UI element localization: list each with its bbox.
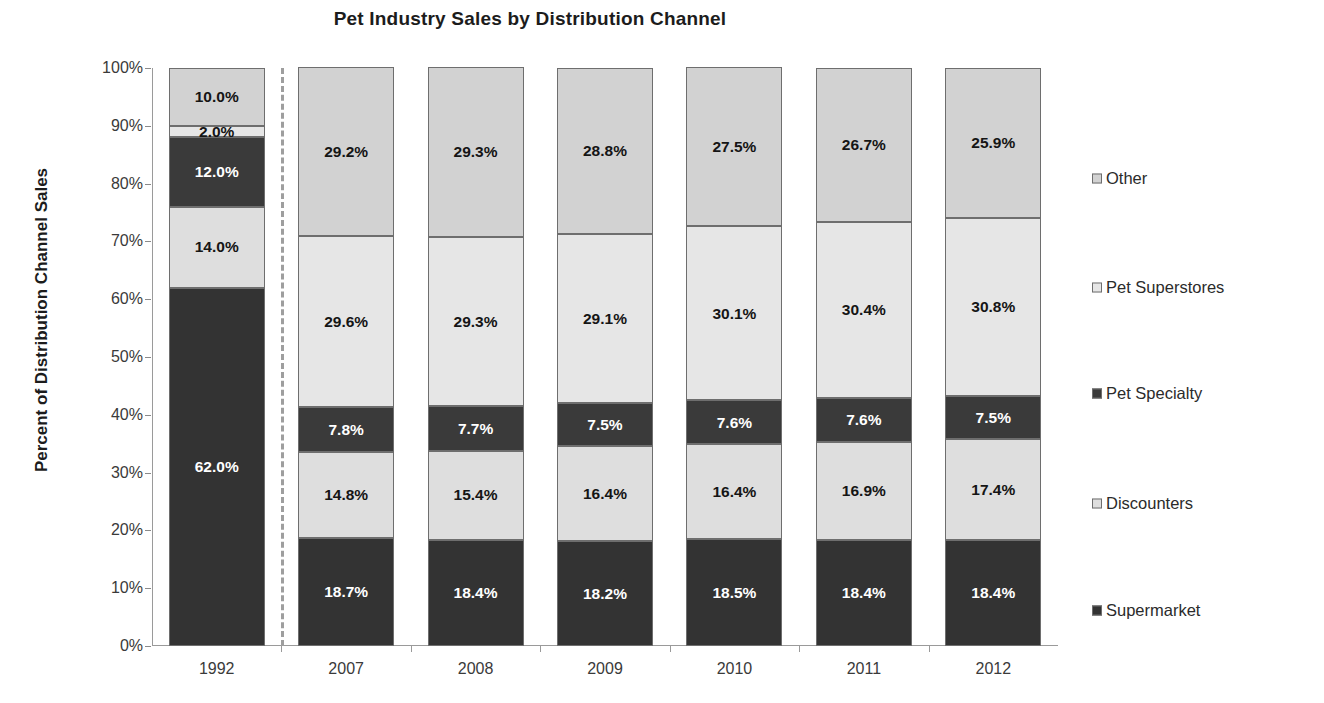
bar-stack[interactable]: 18.4%17.4%7.5%30.8%25.9% (945, 68, 1041, 646)
bar-segment-value-label: 28.8% (583, 143, 627, 159)
bar-stack[interactable]: 18.5%16.4%7.6%30.1%27.5% (686, 68, 782, 646)
x-tick-label: 2012 (975, 660, 1011, 678)
bar-segment-value-label: 29.2% (324, 144, 368, 160)
bar-stack[interactable]: 18.4%15.4%7.7%29.3%29.3% (428, 68, 524, 646)
y-tick-label: 50% (111, 348, 143, 366)
bar-segment[interactable]: 29.2% (298, 67, 394, 236)
bar-segment[interactable]: 30.4% (816, 222, 912, 398)
y-tick-mark (145, 530, 151, 531)
legend-item[interactable]: Pet Superstores (1092, 278, 1224, 297)
bar-segment-value-label: 14.0% (195, 239, 239, 255)
bar-segment[interactable]: 29.1% (557, 234, 653, 402)
bar-segment[interactable]: 18.2% (557, 541, 653, 646)
bar-stack[interactable]: 18.2%16.4%7.5%29.1%28.8% (557, 68, 653, 646)
bar-segment[interactable]: 62.0% (169, 288, 265, 646)
legend-item[interactable]: Pet Specialty (1092, 384, 1202, 403)
y-tick-label: 0% (120, 637, 143, 655)
y-tick-label: 40% (111, 406, 143, 424)
bar-segment[interactable]: 2.0% (169, 126, 265, 138)
bar-group[interactable]: 18.4%17.4%7.5%30.8%25.9% (929, 68, 1058, 646)
bar-stack[interactable]: 18.7%14.8%7.8%29.6%29.2% (298, 68, 394, 646)
bar-segment[interactable]: 29.6% (298, 236, 394, 407)
bar-segment[interactable]: 30.1% (686, 226, 782, 400)
y-tick-mark (145, 68, 151, 69)
bar-segment-value-label: 18.4% (454, 585, 498, 601)
x-tick-label: 2009 (587, 660, 623, 678)
bar-segment[interactable]: 18.4% (945, 540, 1041, 646)
bar-segment-value-label: 7.5% (976, 410, 1011, 426)
bar-segment[interactable]: 16.4% (557, 446, 653, 541)
legend-item[interactable]: Supermarket (1092, 601, 1200, 620)
legend-swatch-icon (1092, 498, 1102, 508)
category-separator-line (281, 68, 284, 646)
bar-group[interactable]: 18.5%16.4%7.6%30.1%27.5% (670, 68, 799, 646)
bar-segment-value-label: 30.4% (842, 302, 886, 318)
y-axis-title: Percent of Distribution Channel Sales (32, 110, 52, 530)
bar-segment[interactable]: 30.8% (945, 218, 1041, 396)
bar-segment[interactable]: 12.0% (169, 137, 265, 206)
bar-segment[interactable]: 14.8% (298, 452, 394, 538)
bar-segment-value-label: 27.5% (712, 139, 756, 155)
bar-segment[interactable]: 7.5% (557, 403, 653, 446)
y-tick-label: 20% (111, 521, 143, 539)
y-tick-label: 100% (102, 59, 143, 77)
legend-item[interactable]: Discounters (1092, 494, 1193, 513)
y-tick-mark (145, 299, 151, 300)
bar-segment[interactable]: 16.9% (816, 442, 912, 540)
y-tick-mark (145, 126, 151, 127)
x-tick-mark (929, 646, 930, 652)
legend-item[interactable]: Other (1092, 169, 1147, 188)
bar-segment-value-label: 16.4% (583, 486, 627, 502)
bar-segment[interactable]: 14.0% (169, 207, 265, 288)
bar-segment-value-label: 16.4% (712, 484, 756, 500)
bar-segment[interactable]: 28.8% (557, 68, 653, 234)
bar-segment[interactable]: 10.0% (169, 68, 265, 126)
y-tick-label: 80% (111, 175, 143, 193)
bar-segment-value-label: 30.8% (971, 299, 1015, 315)
legend-label: Pet Specialty (1106, 384, 1202, 403)
bar-group[interactable]: 18.7%14.8%7.8%29.6%29.2% (281, 68, 410, 646)
y-tick-mark (145, 646, 151, 647)
bar-segment[interactable]: 7.6% (686, 400, 782, 444)
x-tick-mark (411, 646, 412, 652)
bar-segment[interactable]: 7.7% (428, 406, 524, 451)
bar-segment-value-label: 25.9% (971, 135, 1015, 151)
bar-group[interactable]: 18.4%15.4%7.7%29.3%29.3% (411, 68, 540, 646)
legend-label: Discounters (1106, 494, 1193, 513)
y-tick-mark (145, 241, 151, 242)
bar-segment[interactable]: 18.7% (298, 538, 394, 646)
bar-segment[interactable]: 7.6% (816, 398, 912, 442)
bar-segment[interactable]: 18.4% (816, 540, 912, 646)
bar-segment[interactable]: 29.3% (428, 237, 524, 406)
bar-segment[interactable]: 29.3% (428, 67, 524, 236)
bar-segment[interactable]: 18.4% (428, 540, 524, 646)
bar-segment[interactable]: 15.4% (428, 451, 524, 540)
bar-segment[interactable]: 26.7% (816, 68, 912, 222)
bar-stack[interactable]: 18.4%16.9%7.6%30.4%26.7% (816, 68, 912, 646)
x-tick-mark (799, 646, 800, 652)
bar-segment-value-label: 30.1% (712, 306, 756, 322)
bar-segment[interactable]: 7.5% (945, 396, 1041, 439)
bar-segment[interactable]: 27.5% (686, 67, 782, 226)
y-tick-mark (145, 357, 151, 358)
y-tick-mark (145, 473, 151, 474)
bar-segment-value-label: 14.8% (324, 487, 368, 503)
bar-segment[interactable]: 18.5% (686, 539, 782, 646)
bar-segment-value-label: 29.1% (583, 311, 627, 327)
x-tick-label: 2010 (717, 660, 753, 678)
bar-group[interactable]: 62.0%14.0%12.0%2.0%10.0% (152, 68, 281, 646)
bar-segment-value-label: 18.4% (971, 585, 1015, 601)
legend-swatch-icon (1092, 605, 1102, 615)
bar-segment-value-label: 29.3% (454, 144, 498, 160)
bar-segment[interactable]: 7.8% (298, 407, 394, 452)
bar-segment-value-label: 18.7% (324, 584, 368, 600)
x-tick-mark (281, 646, 282, 652)
bar-segment[interactable]: 16.4% (686, 444, 782, 539)
bar-group[interactable]: 18.4%16.9%7.6%30.4%26.7% (799, 68, 928, 646)
bar-stack[interactable]: 62.0%14.0%12.0%2.0%10.0% (169, 68, 265, 646)
bar-segment-value-label: 7.7% (458, 421, 493, 437)
bar-segment[interactable]: 25.9% (945, 68, 1041, 218)
bar-group[interactable]: 18.2%16.4%7.5%29.1%28.8% (540, 68, 669, 646)
x-tick-label: 1992 (199, 660, 235, 678)
bar-segment[interactable]: 17.4% (945, 439, 1041, 540)
